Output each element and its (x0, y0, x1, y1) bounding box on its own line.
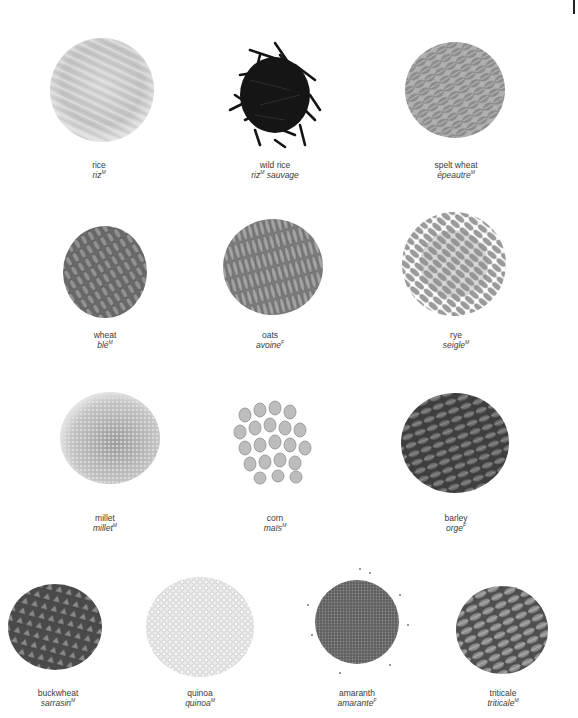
english-name: spelt wheat (386, 160, 526, 170)
triticale-image (452, 583, 552, 678)
french-name: triticaleM (433, 698, 573, 708)
french-name: épeautreM (386, 170, 526, 180)
french-name: sarrasinM (0, 698, 128, 708)
grain-label-rice: rice rizM (29, 160, 169, 180)
rye-image (398, 208, 510, 320)
corn-image (230, 400, 320, 485)
english-name: barley (386, 513, 526, 523)
english-name: rye (386, 330, 526, 340)
french-name: seigleM (386, 340, 526, 350)
barley-image (397, 388, 512, 498)
amaranth-image (300, 565, 415, 680)
grain-label-triticale: triticale triticaleM (433, 688, 573, 708)
french-name: avoineF (200, 340, 340, 350)
english-name: quinoa (130, 688, 270, 698)
grain-label-millet: millet milletM (35, 513, 175, 533)
grain-label-spelt-wheat: spelt wheat épeautreM (386, 160, 526, 180)
french-name: quinoaM (130, 698, 270, 708)
english-name: amaranth (287, 688, 427, 698)
spelt-wheat-image (400, 38, 510, 143)
grain-label-rye: rye seigleM (386, 330, 526, 350)
english-name: wild rice (205, 160, 345, 170)
english-name: rice (29, 160, 169, 170)
grain-label-amaranth: amaranth amaranteF (287, 688, 427, 708)
grain-label-corn: corn maïsM (205, 513, 345, 533)
english-name: corn (205, 513, 345, 523)
english-name: triticale (433, 688, 573, 698)
french-name: rizM (29, 170, 169, 180)
french-name: rizM sauvage (205, 170, 345, 180)
millet-image (55, 388, 170, 493)
english-name: wheat (35, 330, 175, 340)
grain-label-barley: barley orgeF (386, 513, 526, 533)
grain-label-oats: oats avoineF (200, 330, 340, 350)
grain-label-wheat: wheat bléM (35, 330, 175, 350)
french-name: milletM (35, 523, 175, 533)
french-name: orgeF (386, 523, 526, 533)
french-name: maïsM (205, 523, 345, 533)
wild-rice-image (220, 35, 330, 150)
french-name: bléM (35, 340, 175, 350)
oats-image (218, 215, 328, 320)
buckwheat-image (5, 580, 110, 675)
english-name: millet (35, 513, 175, 523)
grain-label-wild-rice: wild rice rizM sauvage (205, 160, 345, 180)
grain-label-quinoa: quinoa quinoaM (130, 688, 270, 708)
french-name: amaranteF (287, 698, 427, 708)
grain-label-buckwheat: buckwheat sarrasinM (0, 688, 128, 708)
quinoa-image (143, 573, 258, 681)
english-name: buckwheat (0, 688, 128, 698)
wheat-image (60, 222, 150, 322)
english-name: oats (200, 330, 340, 340)
rice-image (47, 35, 157, 145)
page-edge-marker (573, 0, 575, 14)
